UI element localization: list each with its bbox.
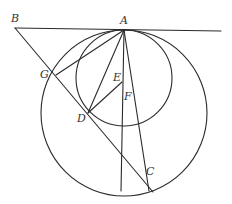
label-F: F: [123, 90, 132, 103]
label-E: E: [112, 71, 121, 84]
label-B: B: [10, 12, 19, 25]
lines-group: [15, 28, 221, 192]
vertical-line-A: [121, 30, 124, 191]
label-G: G: [40, 68, 49, 81]
labels-group: A B C D E F G: [10, 12, 155, 178]
label-D: D: [76, 112, 86, 125]
label-C: C: [146, 165, 155, 178]
label-A: A: [119, 14, 128, 27]
geometry-figure: A B C D E F G: [0, 0, 232, 204]
secant-BC: [15, 28, 153, 192]
segment-DE: [88, 82, 122, 113]
